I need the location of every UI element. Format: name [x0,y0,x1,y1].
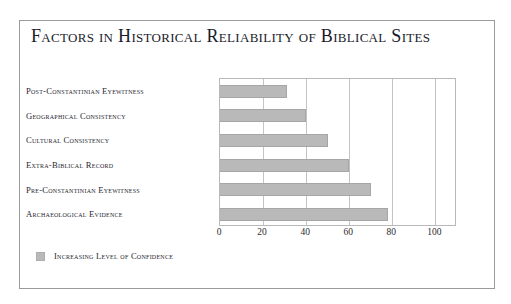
category-label: Geographical Consistency [26,105,212,127]
x-tick-label: 40 [300,227,310,237]
category-label: Extra-Biblical Record [26,154,212,176]
plot-area [219,78,456,226]
bar-row [220,153,455,178]
bar [220,85,287,98]
bar-row [220,178,455,203]
category-label: Archaeological Evidence [26,203,212,225]
bar [220,183,371,196]
chart-screenshot: { "chart_data": { "type": "bar", "orient… [0,0,511,304]
x-tick-label: 20 [257,227,267,237]
bar [220,159,349,172]
chart-legend: Increasing Level of Confidence [36,251,173,261]
bar [220,134,328,147]
y-axis-category-labels: Post-Constantinian EyewitnessGeographica… [26,79,212,227]
x-tick-label: 100 [427,227,441,237]
bar [220,208,388,221]
bar-row [220,104,455,129]
category-label: Cultural Consistency [26,129,212,151]
x-tick-label: 0 [217,227,222,237]
legend-label: Increasing Level of Confidence [54,251,173,261]
bar [220,109,306,122]
x-axis-tick-labels: 020406080100 [219,227,456,243]
bar-row [220,202,455,227]
legend-swatch-icon [36,252,45,261]
category-label: Post-Constantinian Eyewitness [26,80,212,102]
bar-row [220,128,455,153]
chart-frame: Factors in Historical Reliability of Bib… [19,20,495,289]
category-label: Pre-Constantinian Eyewitness [26,179,212,201]
chart-title: Factors in Historical Reliability of Bib… [31,25,481,47]
x-tick-label: 60 [344,227,354,237]
x-tick-label: 80 [387,227,397,237]
bar-row [220,79,455,104]
